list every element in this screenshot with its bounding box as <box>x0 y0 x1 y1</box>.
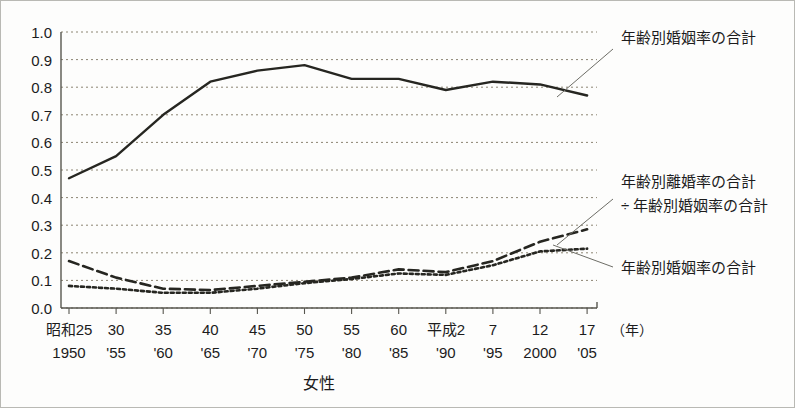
y-tick-label-0.9: 0.9 <box>31 52 52 69</box>
x-tick-label-western-11: '05 <box>577 344 597 361</box>
y-tick-labels-group: 1.00.90.80.70.60.50.40.30.20.10.0 <box>31 24 52 317</box>
x-tick-label-western-0: 1950 <box>52 344 85 361</box>
x-tickmarks-group <box>69 308 587 314</box>
chart-figure: 1.00.90.80.70.60.50.40.30.20.10.0 昭和2530… <box>0 0 795 408</box>
x-tick-label-western-4: '70 <box>248 344 268 361</box>
series-group <box>69 65 587 293</box>
annotation-divorce-ratio-leader <box>557 199 613 245</box>
x-tick-label-era-10: 12 <box>532 321 549 338</box>
x-tick-label-era-9: 7 <box>489 321 497 338</box>
x-tick-label-western-10: 2000 <box>523 344 556 361</box>
y-tick-label-0.3: 0.3 <box>31 217 52 234</box>
y-tick-label-0.4: 0.4 <box>31 190 52 207</box>
x-tick-label-era-11: 17 <box>579 321 596 338</box>
x-tick-label-era-3: 40 <box>202 321 219 338</box>
line-chart: 1.00.90.80.70.60.50.40.30.20.10.0 昭和2530… <box>1 1 795 408</box>
annotation-marriage-top-leader <box>557 49 613 97</box>
x-tick-label-western-7: '85 <box>389 344 409 361</box>
x-tick-label-era-2: 35 <box>155 321 172 338</box>
x-tick-label-era-0: 昭和25 <box>46 321 93 338</box>
annotation-divorce-ratio: 年齢別離婚率の合計÷ 年齢別婚姻率の合計 <box>621 173 768 214</box>
y-tick-label-0.6: 0.6 <box>31 134 52 151</box>
x-tick-label-western-2: '60 <box>153 344 173 361</box>
x-tick-label-western-6: '80 <box>342 344 362 361</box>
y-tick-label-0.1: 0.1 <box>31 272 52 289</box>
x-tick-labels-western-group: 1950'55'60'65'70'75'80'85'90'952000'05 <box>52 344 597 361</box>
x-axis-unit-label: （年） <box>611 322 653 338</box>
x-tick-label-era-4: 45 <box>249 321 266 338</box>
annotation-marriage-bottom-line-0: 年齢別婚姻率の合計 <box>621 259 756 276</box>
x-tick-label-western-5: '75 <box>295 344 315 361</box>
annotation-marriage-bottom: 年齢別婚姻率の合計 <box>621 259 756 276</box>
y-tick-label-0.5: 0.5 <box>31 162 52 179</box>
x-tick-label-western-9: '95 <box>483 344 503 361</box>
x-tick-label-era-6: 55 <box>343 321 360 338</box>
annotation-divorce-ratio-line-0: 年齢別離婚率の合計 <box>621 173 756 190</box>
x-tick-label-era-1: 30 <box>108 321 125 338</box>
x-tick-label-western-8: '90 <box>436 344 456 361</box>
x-tick-label-era-8: 平成2 <box>427 321 465 338</box>
annotations-group: 年齢別婚姻率の合計年齢別離婚率の合計÷ 年齢別婚姻率の合計年齢別婚姻率の合計 <box>621 29 768 276</box>
x-tick-labels-era-group: 昭和2530354045505560平成271217 <box>46 321 596 338</box>
series-line-0 <box>69 65 587 178</box>
x-tick-label-era-5: 50 <box>296 321 313 338</box>
y-tick-label-0.8: 0.8 <box>31 79 52 96</box>
x-tick-label-era-7: 60 <box>390 321 407 338</box>
annotation-marriage-top: 年齢別婚姻率の合計 <box>621 29 756 46</box>
annotation-divorce-ratio-line-1: ÷ 年齢別婚姻率の合計 <box>621 197 768 214</box>
annotation-marriage-top-line-0: 年齢別婚姻率の合計 <box>621 29 756 46</box>
y-tick-label-0.7: 0.7 <box>31 107 52 124</box>
y-tick-label-1.0: 1.0 <box>31 24 52 41</box>
x-tick-label-western-1: '55 <box>106 344 126 361</box>
y-tick-label-0.2: 0.2 <box>31 245 52 262</box>
series-line-2 <box>69 249 587 293</box>
x-axis-title: 女性 <box>303 374 335 392</box>
x-tick-label-western-3: '65 <box>201 344 221 361</box>
annotation-leaders-group <box>553 49 613 267</box>
y-tick-label-0.0: 0.0 <box>31 300 52 317</box>
